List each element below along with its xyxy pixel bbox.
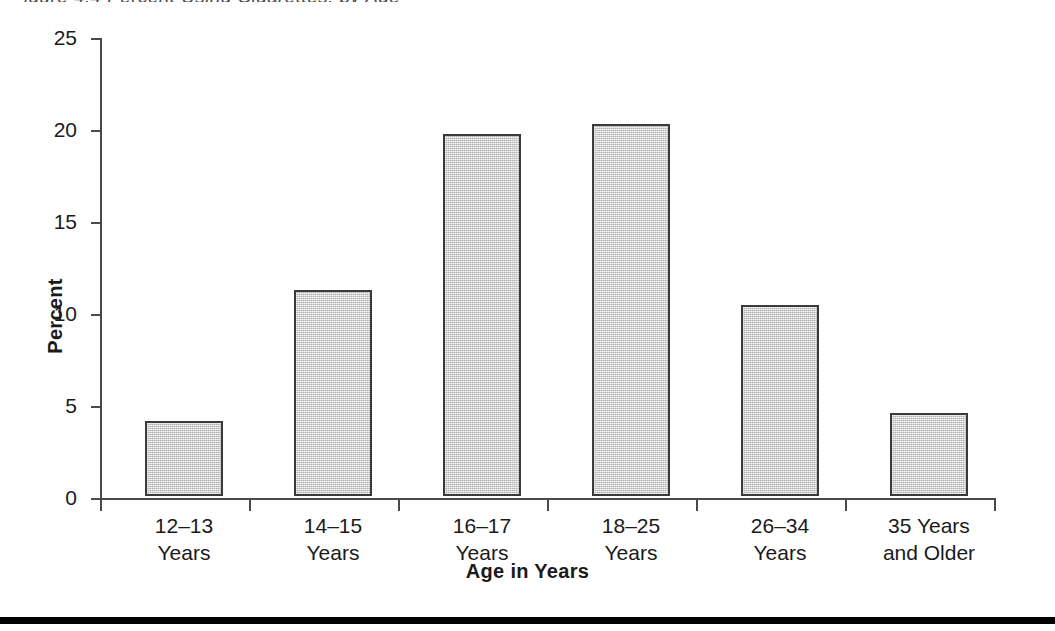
figure-container: igure 4.4 Percent Using Cigarettes, by A… — [0, 0, 1055, 631]
bar-26-34 — [741, 305, 819, 496]
y-tick-5: 5 — [91, 406, 100, 408]
bar-18-25 — [592, 124, 670, 496]
y-tick-label-0: 0 — [65, 486, 77, 510]
x-tick-boundary-3 — [547, 498, 549, 511]
x-tick-label-line1: 16–17 — [453, 512, 511, 539]
x-tick-label-18-25: 18–25 Years — [602, 512, 660, 566]
y-tick-0: 0 — [91, 498, 100, 500]
x-axis-title: Age in Years — [0, 560, 1055, 583]
x-tick-boundary-0 — [100, 498, 102, 511]
y-tick-label-15: 15 — [54, 210, 77, 234]
y-tick-10: 10 — [91, 314, 100, 316]
plot-area: 25 20 15 10 5 0 12–13 — [100, 38, 995, 498]
x-tick-boundary-4 — [696, 498, 698, 511]
y-axis-title: Percent — [44, 278, 67, 353]
x-tick-label-line1: 18–25 — [602, 512, 660, 539]
bottom-divider-rule — [0, 617, 1055, 624]
x-tick-boundary-1 — [249, 498, 251, 511]
bar-14-15 — [294, 290, 372, 496]
x-tick-label-14-15: 14–15 Years — [304, 512, 362, 566]
x-tick-boundary-5 — [845, 498, 847, 511]
x-tick-label-line1: 14–15 — [304, 512, 362, 539]
x-axis-end-tick — [994, 498, 996, 511]
x-tick-label-line1: 26–34 — [751, 512, 809, 539]
x-tick-label-line1: 35 Years — [883, 512, 975, 539]
caption-remnant-text: igure 4.4 Percent Using Cigarettes, by A… — [0, 0, 1055, 2]
y-tick-20: 20 — [91, 130, 100, 132]
y-tick-label-20: 20 — [54, 118, 77, 142]
y-tick-15: 15 — [91, 222, 100, 224]
y-tick-label-25: 25 — [54, 26, 77, 50]
x-tick-label-16-17: 16–17 Years — [453, 512, 511, 566]
y-tick-25: 25 — [91, 38, 100, 40]
x-tick-boundary-2 — [398, 498, 400, 511]
x-tick-label-26-34: 26–34 Years — [751, 512, 809, 566]
bar-12-13 — [145, 421, 223, 496]
x-tick-label-12-13: 12–13 Years — [155, 512, 213, 566]
y-axis-line — [100, 38, 102, 499]
x-tick-label-35-and-older: 35 Years and Older — [883, 512, 975, 566]
x-tick-label-line1: 12–13 — [155, 512, 213, 539]
y-tick-label-5: 5 — [65, 394, 77, 418]
bar-35-and-older — [890, 413, 968, 496]
bar-16-17 — [443, 134, 521, 496]
